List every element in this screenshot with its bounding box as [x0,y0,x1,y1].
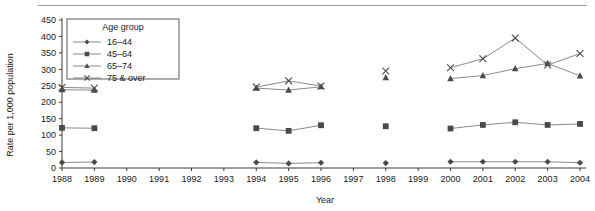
y-tick-label: 350 [41,48,56,58]
x-tick-label: 1997 [343,174,363,184]
data-point-marker [383,160,389,166]
legend-item-label: 16–44 [107,37,132,47]
y-tick-label: 300 [41,65,56,75]
chart-legend: Age group16–4445–6465–7475 & over [67,19,179,83]
data-point-marker [383,123,389,129]
data-point-marker [512,159,518,165]
x-tick-label: 1999 [408,174,428,184]
y-tick-label: 200 [41,97,56,107]
data-point-marker [59,159,65,165]
x-axis-title: Year [316,195,334,205]
series-16-44 [59,159,583,167]
data-point-marker [577,160,583,166]
data-point-marker [382,74,389,80]
data-point-marker [286,160,292,166]
data-point-marker [91,125,97,131]
x-tick-label: 1988 [52,174,72,184]
data-point-marker [577,50,584,57]
legend-item-label: 65–74 [107,61,132,71]
x-tick-label: 1989 [84,174,104,184]
x-tick-label: 1991 [149,174,169,184]
legend-title: Age group [102,22,144,32]
data-point-marker [545,122,551,128]
data-point-marker [318,122,324,128]
data-point-marker [382,68,389,75]
data-point-marker [447,64,454,71]
data-point-marker [318,160,324,166]
data-point-marker [253,159,259,165]
y-tick-label: 400 [41,32,56,42]
x-tick-label: 2002 [505,174,525,184]
legend-item-label: 45–64 [107,49,132,59]
y-tick-label: 450 [41,15,56,25]
x-tick-label: 1995 [279,174,299,184]
data-point-marker [85,52,90,57]
rate-by-age-group-line-chart: 050100150200250300350400450 198819891990… [0,0,595,211]
x-tick-label: 1996 [311,174,331,184]
x-tick-label: 1994 [246,174,266,184]
series-45-64 [59,119,583,133]
x-tick-label: 2000 [440,174,460,184]
x-tick-label: 2004 [570,174,590,184]
y-axis: 050100150200250300350400450 [41,15,62,173]
data-point-marker [512,119,518,125]
x-tick-label: 2003 [538,174,558,184]
data-point-marker [253,125,259,131]
data-point-marker [447,159,453,165]
data-point-marker [91,159,97,165]
y-axis-title: Rate per 1,000 population [5,53,15,157]
x-tick-label: 1990 [117,174,137,184]
data-point-marker [448,126,454,132]
data-point-marker [480,159,486,165]
legend-item-label: 75 & over [107,73,146,83]
data-point-marker [286,128,292,134]
x-tick-label: 1992 [181,174,201,184]
x-tick-label: 1993 [214,174,234,184]
y-tick-label: 50 [46,147,56,157]
data-point-marker [512,35,519,42]
x-tick-label: 2001 [473,174,493,184]
y-tick-label: 150 [41,114,56,124]
data-point-marker [545,159,551,165]
y-tick-label: 100 [41,130,56,140]
data-point-marker [59,125,65,131]
y-tick-label: 250 [41,81,56,91]
data-point-marker [480,122,486,128]
data-point-marker [479,55,486,62]
top-divider-rule [38,5,587,6]
x-axis: 1988198919901991199219931994199519961997… [52,168,590,184]
x-tick-label: 1998 [376,174,396,184]
data-point-marker [577,121,583,127]
chart-figure: 050100150200250300350400450 198819891990… [0,0,595,211]
y-tick-label: 0 [51,163,56,173]
